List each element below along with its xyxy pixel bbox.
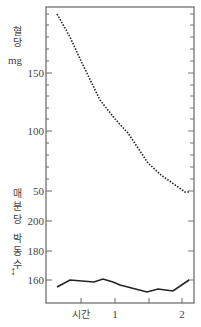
y-tick-150: 150 (28, 67, 45, 79)
glucose-unit-label: mg (8, 54, 22, 66)
y-tick-50: 50 (33, 185, 45, 197)
right-axis-ticks (188, 14, 194, 280)
y-tick-200: 200 (28, 215, 45, 227)
chart-canvas: 150 100 50 200 180 160 1 2 시간 (0, 0, 201, 327)
double-arrow-icon: ↕ (10, 264, 16, 279)
plot-frame (46, 7, 194, 303)
x-tick-2: 2 (179, 308, 185, 320)
y-tick-180: 180 (28, 245, 45, 257)
x-tick-1: 1 (112, 308, 118, 320)
x-axis-ticks (81, 298, 182, 303)
y-tick-160: 160 (28, 274, 45, 286)
glucose-series-line (57, 14, 190, 192)
x-axis-label: 시간 (72, 309, 90, 320)
glucose-axis-label: 혈당 (9, 26, 24, 48)
y-tick-100: 100 (28, 125, 45, 137)
left-axis-ticks (46, 14, 52, 280)
pulse-axis-label: 매분당 박동수 (9, 188, 24, 272)
pulse-series-line (57, 279, 189, 292)
